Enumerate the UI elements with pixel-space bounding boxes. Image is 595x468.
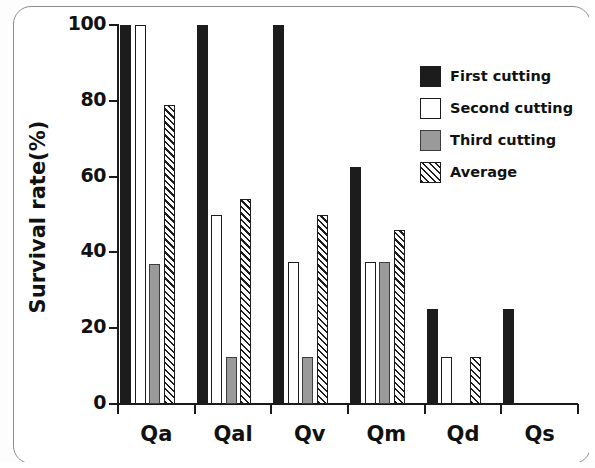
x-axis-tick [117,404,119,414]
bar-qv-average [317,215,328,405]
bar-qv-third-cutting [302,357,313,404]
bar-qal-third-cutting [226,357,237,404]
y-axis-tick-label: 0 [42,391,106,413]
y-axis-tick [109,100,118,102]
legend-item-third-cutting: Third cutting [420,124,590,156]
bar-qv-first-cutting [273,25,284,404]
x-axis-category-label-qs: Qs [495,422,585,446]
y-axis-tick-label: 40 [42,239,106,261]
legend-swatch-second-cutting-icon [420,98,441,119]
y-axis-tick-label: 80 [42,88,106,110]
legend-swatch-first-cutting-icon [420,66,441,87]
legend-label-first-cutting: First cutting [450,68,551,84]
bar-qm-second-cutting [365,262,376,404]
x-axis-tick [500,404,502,414]
y-axis-tick [109,176,118,178]
y-axis-tick [109,327,118,329]
chart-legend: First cutting Second cutting Third cutti… [420,60,590,188]
bar-qd-second-cutting [441,357,452,404]
bar-qa-average [164,105,175,404]
bar-qm-average [394,230,405,404]
bar-qd-average [470,357,481,404]
bar-qal-first-cutting [197,25,208,404]
bar-qa-third-cutting [149,264,160,404]
legend-label-average: Average [450,164,517,180]
y-axis-tick-label: 20 [42,315,106,337]
y-axis-tick-label: 100 [42,12,106,34]
bar-qs-first-cutting [503,309,514,404]
legend-item-first-cutting: First cutting [420,60,590,92]
bar-qal-average [240,199,251,404]
y-axis-tick [109,403,118,405]
legend-swatch-third-cutting-icon [420,130,441,151]
legend-swatch-average-icon [420,162,441,183]
bar-qv-second-cutting [288,262,299,404]
y-axis-tick-label: 60 [42,164,106,186]
bar-qd-first-cutting [427,309,438,404]
x-axis-tick [577,404,579,414]
bar-qa-second-cutting [135,25,146,404]
bar-qal-second-cutting [211,215,222,405]
bar-qa-first-cutting [120,25,131,404]
x-axis-tick [347,404,349,414]
y-axis-tick [109,24,118,26]
legend-label-second-cutting: Second cutting [450,100,573,116]
y-axis-tick [109,251,118,253]
bar-qm-third-cutting [379,262,390,404]
legend-item-average: Average [420,156,590,188]
bar-qm-first-cutting [350,167,361,404]
y-axis-tick-labels: 020406080100 [34,0,106,468]
legend-label-third-cutting: Third cutting [450,132,556,148]
x-axis-tick [194,404,196,414]
figure-bar-chart-survival-rate: Survival rate(%) 020406080100 QaQalQvQmQ… [0,0,595,468]
legend-item-second-cutting: Second cutting [420,92,590,124]
x-axis-tick [270,404,272,414]
x-axis-tick [424,404,426,414]
